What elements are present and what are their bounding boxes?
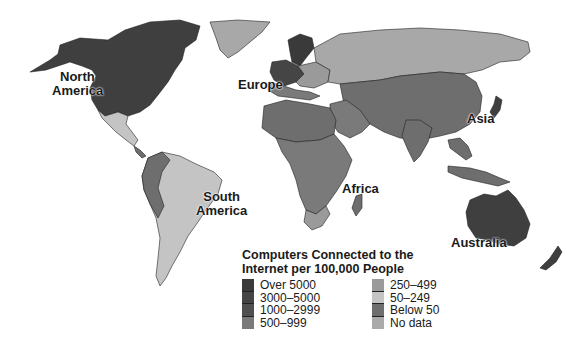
legend-column-right: 250–499 50–249 Below 50 No data (372, 279, 482, 329)
central-america-region (134, 146, 146, 158)
central-africa-region (276, 134, 352, 214)
legend-label: No data (390, 316, 432, 330)
mexico-region (98, 110, 138, 146)
legend-swatch (242, 304, 254, 317)
label-line: North (52, 70, 103, 84)
madagascar-region (352, 194, 362, 216)
legend-item: No data (372, 317, 482, 330)
india-region (402, 120, 432, 162)
legend-swatch (242, 317, 254, 330)
legend-title-line2: Internet per 100,000 People (242, 262, 482, 276)
legend-swatch (372, 279, 384, 292)
legend-label: 500–999 (260, 316, 307, 330)
greenland-region (210, 20, 270, 58)
label-europe: Europe (238, 78, 283, 92)
legend-item: 50–249 (372, 292, 482, 305)
legend-swatch (242, 292, 254, 305)
legend-column-left: Over 5000 3000–5000 1000–2999 500–999 (242, 279, 372, 329)
legend-item: 250–499 (372, 279, 482, 292)
legend-columns: Over 5000 3000–5000 1000–2999 500–999 25… (242, 279, 482, 329)
new-zealand-region (540, 246, 562, 270)
label-line: South (196, 190, 247, 204)
label-north-america: North America (52, 70, 103, 98)
legend-item: 500–999 (242, 317, 372, 330)
map-legend: Computers Connected to the Internet per … (242, 248, 482, 329)
legend-item: Below 50 (372, 304, 482, 317)
label-africa: Africa (342, 182, 379, 196)
legend-item: 3000–5000 (242, 292, 372, 305)
label-asia: Asia (467, 112, 494, 126)
label-south-america: South America (196, 190, 247, 218)
legend-swatch (372, 304, 384, 317)
legend-title-line1: Computers Connected to the (242, 248, 482, 262)
indonesia-region (448, 166, 510, 186)
legend-item: 1000–2999 (242, 304, 372, 317)
legend-swatch (372, 292, 384, 305)
scandinavia-region (288, 34, 314, 66)
legend-swatch (242, 279, 254, 292)
label-line: America (52, 84, 103, 98)
north-africa-region (262, 100, 336, 142)
north-america-region (30, 20, 200, 116)
legend-item: Over 5000 (242, 279, 372, 292)
label-line: America (196, 204, 247, 218)
legend-swatch (372, 317, 384, 330)
southeast-asia-region (448, 138, 472, 160)
